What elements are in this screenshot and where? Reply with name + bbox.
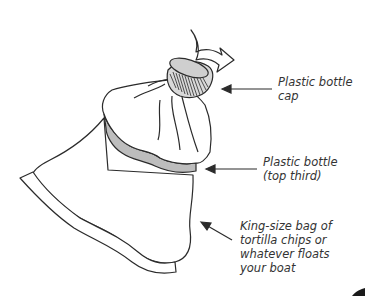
callout-arrows [201,85,272,240]
label-chip-bag: King-size bag of tortilla chips or whate… [240,219,332,275]
corner-mark [352,288,365,296]
bottle-cap [167,54,213,97]
label-bottle-top-third: Plastic bottle (top third) [263,155,337,183]
label-bottle-cap: Plastic bottle cap [278,75,352,103]
